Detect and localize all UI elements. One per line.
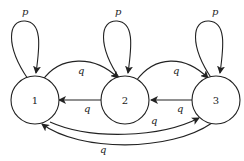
edge-label-3-1: q xyxy=(100,144,106,155)
node-label: 3 xyxy=(213,95,219,106)
node-2: 2 xyxy=(101,76,149,124)
edge-2-3 xyxy=(136,61,208,81)
edge-2-2 xyxy=(104,21,131,79)
node-label: 2 xyxy=(122,95,128,106)
edge-label-2-2: p xyxy=(115,6,122,17)
node-label: 1 xyxy=(32,95,38,106)
node-3: 3 xyxy=(192,76,240,124)
edge-label-2-1: q xyxy=(84,103,90,114)
node-1: 1 xyxy=(11,76,59,124)
edge-1-1 xyxy=(12,21,39,79)
edge-label-3-2: q xyxy=(177,103,183,114)
edge-label-1-3: q xyxy=(151,115,157,126)
edge-label-1-1: p xyxy=(22,6,29,17)
edge-label-1-2: q xyxy=(78,65,84,76)
edge-label-2-3: q xyxy=(173,65,179,76)
state-diagram: 1 2 3 p p p q q q q q q xyxy=(0,0,244,161)
edge-label-3-3: p xyxy=(212,6,219,17)
